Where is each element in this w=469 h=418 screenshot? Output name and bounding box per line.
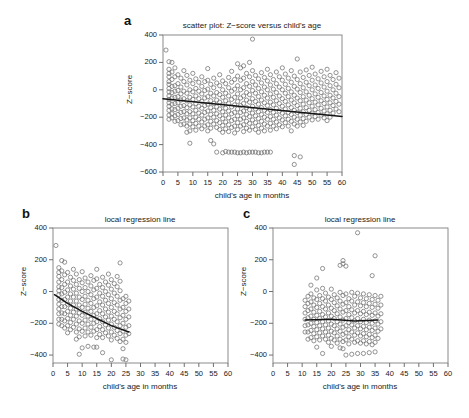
data-point	[303, 324, 307, 328]
data-point	[355, 300, 359, 304]
data-point	[347, 297, 351, 301]
data-point	[318, 338, 322, 342]
data-point	[379, 312, 383, 316]
data-point	[344, 353, 348, 357]
data-point	[315, 288, 319, 292]
data-point	[309, 283, 313, 287]
data-point	[361, 292, 365, 296]
data-point	[347, 342, 351, 346]
data-point	[376, 336, 380, 340]
data-point	[373, 302, 377, 306]
data-point	[303, 311, 307, 315]
data-point	[353, 311, 357, 315]
data-point	[329, 314, 333, 318]
data-point	[320, 266, 324, 270]
data-point	[376, 314, 380, 318]
data-point	[323, 299, 327, 303]
data-point	[326, 340, 330, 344]
data-point	[335, 341, 339, 345]
data-point	[358, 341, 362, 345]
data-point	[326, 295, 330, 299]
data-point	[370, 313, 374, 317]
data-point	[338, 337, 342, 341]
data-point	[320, 305, 324, 309]
data-point	[373, 350, 377, 354]
data-point	[353, 326, 357, 330]
data-point	[355, 291, 359, 295]
data-point	[355, 231, 359, 235]
data-point	[364, 297, 368, 301]
data-point	[379, 327, 383, 331]
data-point	[309, 292, 313, 296]
data-point	[364, 335, 368, 339]
data-point	[358, 327, 362, 331]
data-point	[312, 339, 316, 343]
data-point	[376, 322, 380, 326]
y-tick-label-c: 400	[235, 224, 267, 232]
data-point	[315, 305, 319, 309]
data-point	[329, 306, 333, 310]
data-point	[306, 294, 310, 298]
data-point	[341, 347, 345, 351]
data-point	[367, 301, 371, 305]
data-point	[353, 333, 357, 337]
data-point	[358, 312, 362, 316]
data-point	[338, 346, 342, 350]
data-point	[367, 351, 371, 355]
data-point	[344, 264, 348, 268]
data-point	[323, 315, 327, 319]
data-point	[323, 307, 327, 311]
data-point	[329, 287, 333, 291]
data-point	[364, 328, 368, 332]
data-point	[350, 299, 354, 303]
data-point	[373, 254, 377, 258]
data-point	[358, 334, 362, 338]
data-point	[358, 296, 362, 300]
data-point	[320, 351, 324, 355]
data-point	[323, 291, 327, 295]
x-tick-label-c: 60	[433, 370, 463, 378]
data-point	[376, 298, 380, 302]
data-point	[361, 301, 365, 305]
y-tick-label-c: 0	[235, 288, 267, 296]
data-point	[370, 328, 374, 332]
data-point	[320, 286, 324, 290]
y-tick-label-c: −400	[235, 351, 267, 359]
data-point	[355, 351, 359, 355]
data-point	[373, 340, 377, 344]
data-point	[379, 294, 383, 298]
data-point	[370, 274, 374, 278]
data-point	[350, 290, 354, 294]
data-point	[312, 303, 316, 307]
data-point	[370, 335, 374, 339]
data-point	[320, 297, 324, 301]
data-point	[315, 345, 319, 349]
data-point	[347, 328, 351, 332]
data-point	[376, 329, 380, 333]
data-point	[370, 297, 374, 301]
data-point	[379, 303, 383, 307]
data-point	[370, 321, 374, 325]
figure-panel-group: ascatter plot: Z−score versus child's ag…	[0, 0, 469, 418]
data-point	[370, 343, 374, 347]
data-point	[367, 293, 371, 297]
data-point	[364, 312, 368, 316]
y-tick-label-c: 200	[235, 256, 267, 264]
data-point	[320, 312, 324, 316]
y-tick-label-c: −200	[235, 319, 267, 327]
data-point	[347, 335, 351, 339]
data-point	[329, 344, 333, 348]
data-point	[379, 320, 383, 324]
data-point	[373, 293, 377, 297]
data-point	[364, 342, 368, 346]
data-point	[361, 351, 365, 355]
data-point	[350, 352, 354, 356]
data-point	[335, 327, 339, 331]
data-point	[315, 276, 319, 280]
